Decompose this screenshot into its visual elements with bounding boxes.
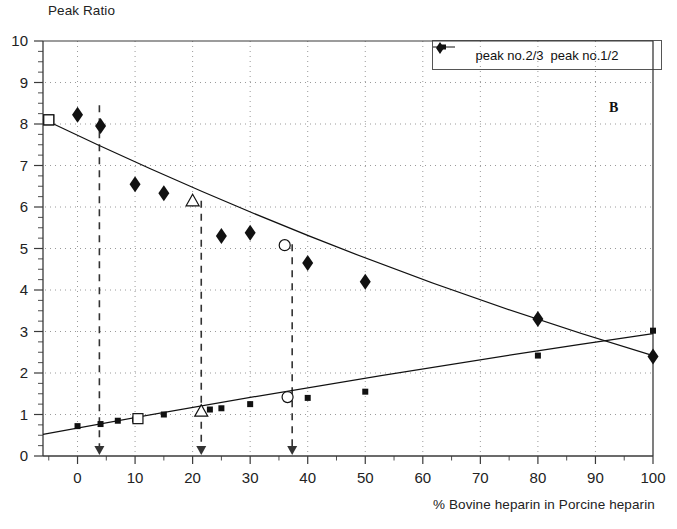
x-tick-label: 80 bbox=[518, 469, 558, 486]
annotation-arrow-icon bbox=[94, 446, 104, 455]
x-tick-label: 100 bbox=[633, 469, 673, 486]
data-point-square bbox=[218, 405, 224, 411]
x-tick-label: 10 bbox=[115, 469, 155, 486]
data-point-diamond bbox=[95, 118, 106, 134]
x-tick-label: 40 bbox=[288, 469, 328, 486]
data-point-square bbox=[161, 412, 167, 418]
data-point-open-circle bbox=[282, 392, 293, 403]
chart-root: Peak Ratio % Bovine heparin in Porcine h… bbox=[0, 0, 677, 529]
y-tick-label: 3 bbox=[0, 323, 28, 340]
data-point-square bbox=[207, 407, 213, 413]
annotation-arrow-icon bbox=[287, 446, 297, 455]
data-point-diamond bbox=[648, 348, 659, 364]
data-point-square bbox=[247, 401, 253, 407]
x-tick-label: 0 bbox=[58, 469, 98, 486]
data-point-diamond bbox=[216, 228, 227, 244]
data-point-square bbox=[362, 389, 368, 395]
data-point-diamond bbox=[532, 311, 543, 327]
annotation-arrow-icon bbox=[196, 446, 206, 455]
x-tick-label: 70 bbox=[460, 469, 500, 486]
data-point-open-square bbox=[44, 115, 54, 125]
y-tick-label: 4 bbox=[0, 281, 28, 298]
x-tick-label: 20 bbox=[173, 469, 213, 486]
x-tick-label: 30 bbox=[230, 469, 270, 486]
x-tick-label: 90 bbox=[575, 469, 615, 486]
data-point-square bbox=[305, 395, 311, 401]
data-point-diamond bbox=[302, 255, 313, 271]
data-point-diamond bbox=[360, 274, 371, 290]
y-tick-label: 6 bbox=[0, 198, 28, 215]
data-point-diamond bbox=[130, 176, 141, 192]
data-point-square bbox=[98, 421, 104, 427]
plot-canvas bbox=[0, 0, 677, 529]
data-point-square bbox=[650, 328, 656, 334]
y-tick-label: 8 bbox=[0, 115, 28, 132]
series-fit-line bbox=[43, 119, 653, 356]
x-tick-label: 60 bbox=[403, 469, 443, 486]
y-tick-label: 0 bbox=[0, 447, 28, 464]
data-point-square bbox=[75, 423, 81, 429]
y-tick-label: 7 bbox=[0, 157, 28, 174]
y-tick-label: 2 bbox=[0, 364, 28, 381]
data-point-diamond bbox=[72, 107, 83, 123]
y-tick-label: 10 bbox=[0, 32, 28, 49]
data-point-open-triangle bbox=[186, 194, 199, 206]
y-tick-label: 1 bbox=[0, 406, 28, 423]
y-tick-label: 9 bbox=[0, 74, 28, 91]
data-point-diamond bbox=[245, 225, 256, 241]
data-point-square bbox=[535, 353, 541, 359]
data-point-open-circle bbox=[279, 240, 290, 251]
x-tick-label: 50 bbox=[345, 469, 385, 486]
y-tick-label: 5 bbox=[0, 240, 28, 257]
data-point-square bbox=[115, 418, 121, 424]
data-point-open-square bbox=[133, 414, 143, 424]
data-point-diamond bbox=[158, 185, 169, 201]
